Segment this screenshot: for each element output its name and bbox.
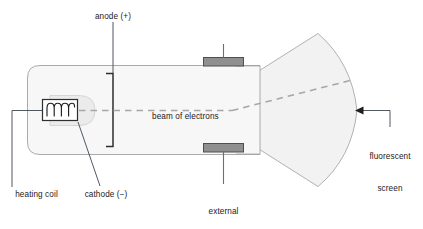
label-heating-coil: heating coil (0, 190, 73, 201)
cathode-ray-tube-diagram: anode (+) beam of electrons heating coil… (0, 0, 423, 229)
label-external-field: external magnetic or electric field (189, 186, 258, 229)
label-anode: anode (+) (80, 12, 146, 23)
funnel-and-screen-body (258, 34, 357, 187)
label-cathode: cathode (−) (71, 190, 141, 201)
deflection-plate-top (204, 58, 244, 67)
deflection-plate-bottom (204, 144, 244, 153)
label-fluorescent-screen: fluorescent screen (357, 131, 423, 215)
label-fluorescent-screen-line-2: screen (357, 184, 423, 195)
label-external-field-line-1: external (189, 207, 258, 218)
label-fluorescent-screen-line-1: fluorescent (357, 152, 423, 163)
label-beam-of-electrons: beam of electrons (152, 112, 219, 123)
